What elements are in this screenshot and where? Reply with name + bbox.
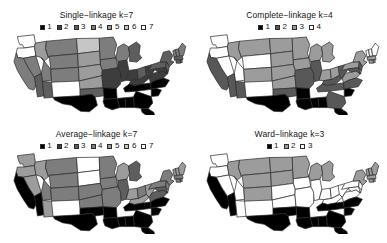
state-ct — [175, 179, 180, 182]
legend-entry: 4 — [91, 142, 103, 150]
legend-swatch — [57, 144, 62, 149]
panel-single-linkage: Single−linkage k=7 1234567 — [0, 0, 193, 121]
legend-swatch — [124, 25, 129, 30]
state-mi — [321, 161, 334, 181]
state-co — [243, 186, 271, 201]
legend-swatch — [275, 25, 280, 30]
legend-label: 1 — [47, 142, 51, 150]
us-choropleth-map — [199, 33, 381, 115]
legend-label: 2 — [64, 142, 68, 150]
state-mo — [101, 68, 120, 89]
legend-label: 3 — [81, 142, 85, 150]
state-mi — [321, 42, 334, 62]
legend: 123 — [193, 141, 386, 151]
state-ar — [103, 88, 117, 99]
legend-entry: 6 — [124, 23, 136, 31]
state-sc — [151, 207, 161, 215]
state-me — [178, 43, 185, 56]
legend-swatch — [107, 144, 112, 149]
state-sc — [344, 88, 354, 96]
legend-label: 6 — [132, 142, 136, 150]
legend-swatch — [57, 25, 62, 30]
legend-entry: 4 — [91, 23, 103, 31]
panel-ward-linkage: Ward−linkage k=3 123 — [193, 121, 386, 242]
legend-label: 1 — [266, 23, 270, 31]
state-nm — [235, 81, 246, 98]
state-wy — [49, 173, 78, 189]
state-me — [371, 43, 378, 56]
legend-entry: 7 — [141, 142, 153, 150]
legend-swatch — [91, 25, 96, 30]
legend-label: 6 — [132, 23, 136, 31]
legend-entry: 7 — [141, 23, 153, 31]
map-container — [193, 33, 386, 115]
state-mo — [294, 187, 313, 208]
state-fl — [333, 108, 348, 115]
legend-entry: 5 — [107, 23, 119, 31]
state-ct — [368, 60, 373, 63]
legend-label: 3 — [308, 142, 312, 150]
legend-swatch — [284, 144, 289, 149]
legend-swatch — [309, 25, 314, 30]
state-mo — [294, 68, 313, 89]
state-mo — [101, 187, 120, 208]
state-me — [371, 162, 378, 175]
state-fl — [140, 227, 155, 234]
legend-swatch — [40, 144, 45, 149]
state-nm — [235, 200, 246, 217]
legend-entry: 3 — [74, 23, 86, 31]
state-wy — [242, 54, 271, 70]
legend-entry: 3 — [292, 23, 304, 31]
state-co — [50, 186, 78, 201]
legend-swatch — [267, 144, 272, 149]
map-container — [193, 152, 386, 234]
state-mi — [128, 161, 141, 181]
legend-swatch — [300, 144, 305, 149]
legend-label: 5 — [115, 142, 119, 150]
legend-entry: 1 — [267, 142, 279, 150]
state-wi — [308, 44, 322, 62]
state-nm — [42, 200, 53, 217]
state-wa — [17, 154, 35, 167]
legend: 1234567 — [0, 141, 193, 151]
state-tx — [246, 213, 290, 230]
state-me — [178, 162, 185, 175]
legend-swatch — [91, 144, 96, 149]
legend-swatch — [141, 25, 146, 30]
map-container — [0, 33, 193, 115]
us-choropleth-map — [6, 33, 188, 115]
state-sc — [344, 207, 354, 215]
state-sc — [151, 88, 161, 96]
legend-entry: 1 — [40, 142, 52, 150]
legend-label: 1 — [47, 23, 51, 31]
legend: 1234 — [193, 22, 386, 32]
legend-label: 4 — [98, 23, 102, 31]
state-ga — [133, 210, 152, 227]
legend-entry: 1 — [258, 23, 270, 31]
legend-label: 1 — [274, 142, 278, 150]
legend-swatch — [124, 144, 129, 149]
legend-label: 7 — [149, 142, 153, 150]
state-wa — [17, 35, 35, 48]
state-co — [50, 67, 78, 82]
state-mn — [99, 37, 116, 60]
legend-label: 2 — [64, 23, 68, 31]
legend-entry: 5 — [107, 142, 119, 150]
state-nm — [42, 81, 53, 98]
state-wy — [49, 54, 78, 70]
state-ga — [133, 91, 152, 108]
legend-label: 3 — [81, 23, 85, 31]
legend: 1234567 — [0, 22, 193, 32]
legend-swatch — [107, 25, 112, 30]
legend-label: 5 — [115, 23, 119, 31]
state-wi — [115, 163, 129, 181]
state-ar — [296, 207, 310, 218]
panel-average-linkage: Average−linkage k=7 1234567 — [0, 121, 193, 242]
state-ga — [326, 210, 345, 227]
panel-title: Average−linkage k=7 — [0, 129, 193, 139]
state-mn — [292, 156, 309, 179]
legend-label: 3 — [300, 23, 304, 31]
legend-entry: 3 — [300, 142, 312, 150]
state-ct — [175, 60, 180, 63]
state-fl — [333, 227, 348, 234]
